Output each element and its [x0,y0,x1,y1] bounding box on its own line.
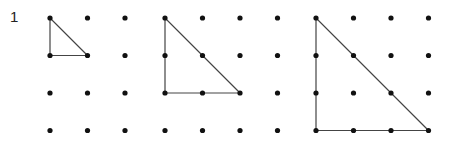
grid-dot [47,15,52,20]
grid-dot [388,128,393,133]
grid-dot [388,15,393,20]
grid-dot [388,53,393,58]
grid-dot [200,128,205,133]
grid-dot [275,15,280,20]
grid-dot [351,90,356,95]
right-triangle [316,18,429,131]
grid-dot [200,53,205,58]
grid-dot [313,53,318,58]
grid-dot [426,128,431,133]
grid-dot [162,90,167,95]
grid-dot [85,15,90,20]
grid-dot [85,128,90,133]
grid-dot [237,53,242,58]
grid-dot [122,128,127,133]
grid-dot [313,128,318,133]
grid-dot [313,90,318,95]
grid-dot [426,15,431,20]
grid-dot [237,90,242,95]
grid-dot [351,53,356,58]
grid-dot [351,128,356,133]
grid-dot [275,53,280,58]
grid-dot [313,15,318,20]
grid-dot [85,90,90,95]
grid-dot [85,53,90,58]
dot-grid-diagram [0,0,466,161]
grid-dot [426,90,431,95]
grid-dot [47,53,52,58]
right-triangle [50,18,88,56]
grid-3 [313,15,431,133]
grid-dot [275,90,280,95]
grid-dot [162,15,167,20]
grid-dot [47,90,52,95]
grid-dot [122,15,127,20]
grid-dot [162,128,167,133]
grid-dot [275,128,280,133]
grid-dot [351,15,356,20]
grid-dot [426,53,431,58]
grid-dot [200,15,205,20]
grid-dot [122,53,127,58]
grid-dot [162,53,167,58]
grid-dot [47,128,52,133]
grid-dot [237,15,242,20]
grid-dot [122,90,127,95]
grid-dot [200,90,205,95]
grid-1 [47,15,127,133]
grid-dot [388,90,393,95]
grid-dot [237,128,242,133]
grid-2 [162,15,280,133]
